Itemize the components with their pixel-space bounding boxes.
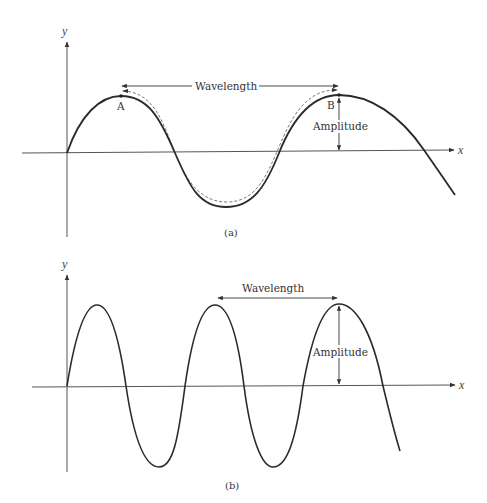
- wavelength-label-a: Wavelength: [195, 80, 258, 92]
- panel-a: y x A B Wavelength Amplitude (a): [22, 24, 464, 238]
- wavelength-label-b: Wavelength: [242, 282, 305, 294]
- x-axis-label: x: [458, 378, 465, 392]
- caption-b: (b): [225, 480, 239, 491]
- wavelength-dashed-path: [123, 90, 336, 202]
- x-axis-label: x: [457, 143, 464, 157]
- point-b-dot: [337, 93, 341, 97]
- amplitude-label-a: Amplitude: [312, 120, 368, 132]
- amplitude-label-b: Amplitude: [312, 346, 368, 358]
- point-a-label: A: [116, 100, 125, 112]
- x-axis: [22, 150, 454, 153]
- caption-a: (a): [224, 227, 238, 238]
- dashed-arrowhead-b: [332, 88, 338, 92]
- dashed-arrowhead-a: [122, 89, 128, 93]
- panel-b: y x Wavelength Amplitude (b): [32, 257, 465, 491]
- point-a-dot: [119, 94, 123, 98]
- y-axis-label: y: [61, 24, 68, 38]
- wave-diagram: y x A B Wavelength Amplitude (a) y x: [0, 0, 487, 503]
- point-b-label: B: [327, 99, 335, 111]
- y-axis-label: y: [61, 257, 68, 271]
